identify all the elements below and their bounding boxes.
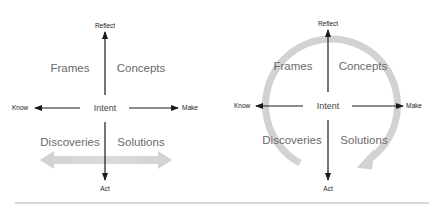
center-label-intent: Intent — [317, 101, 340, 111]
quadrant-concepts: Concepts — [117, 62, 166, 74]
axis-label-make: Make — [406, 102, 422, 109]
quadrant-frames: Frames — [51, 62, 90, 74]
quadrant-discoveries: Discoveries — [40, 136, 100, 148]
axis-label-reflect: Reflect — [318, 20, 338, 27]
right-diagram: Reflect Act Know Make Intent Frames Conc… — [234, 20, 422, 192]
axis-label-reflect: Reflect — [95, 22, 115, 29]
intent-diagrams: Reflect Act Know Make Intent Frames Conc… — [0, 0, 439, 211]
axis-label-make: Make — [182, 104, 198, 111]
quadrant-solutions: Solutions — [340, 134, 388, 146]
left-diagram: Reflect Act Know Make Intent Frames Conc… — [12, 22, 198, 192]
axis-label-know: Know — [12, 104, 29, 111]
quadrant-frames: Frames — [274, 60, 313, 72]
axis-label-act: Act — [100, 185, 110, 192]
quadrant-discoveries: Discoveries — [262, 134, 322, 146]
center-label-intent: Intent — [94, 103, 117, 113]
axis-label-act: Act — [323, 185, 333, 192]
quadrant-concepts: Concepts — [339, 60, 388, 72]
axis-label-know: Know — [234, 102, 251, 109]
horizontal-double-arrow-icon — [40, 151, 172, 169]
quadrant-solutions: Solutions — [117, 136, 165, 148]
